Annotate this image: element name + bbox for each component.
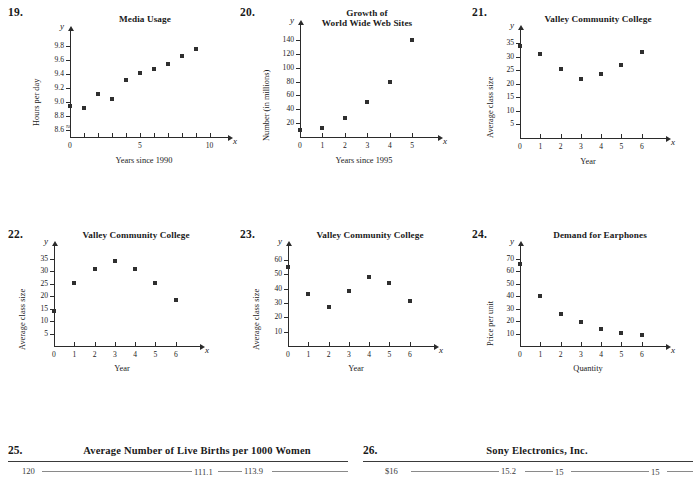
y-axis-tick	[296, 54, 300, 55]
table-25-row-rule-a	[42, 471, 192, 472]
x-axis-line	[54, 346, 200, 347]
y-axis-arrow	[286, 241, 292, 246]
data-point	[327, 305, 331, 309]
data-point	[579, 320, 583, 324]
data-point	[306, 292, 310, 296]
data-point	[133, 267, 137, 271]
table-25-rule	[8, 461, 348, 462]
problem-20: 20. Growth of World Wide Web Sites yx204…	[240, 6, 468, 166]
x-axis-tick	[176, 342, 177, 346]
y-axis-title: Hours per day	[32, 79, 41, 126]
table-25: 25. Average Number of Live Births per 10…	[8, 444, 348, 477]
x-axis-tick	[300, 133, 301, 137]
y-axis-tick	[66, 116, 70, 117]
x-axis-tick-label: 1	[64, 351, 84, 359]
y-axis-variable: y	[44, 236, 48, 246]
x-axis-tick-label: 2	[551, 143, 571, 151]
x-axis-tick-label: 3	[357, 142, 377, 150]
y-axis-break-icon: ≈	[66, 123, 70, 131]
textbook-page: 19. Media Usage yx8.68.89.09.29.49.69.8≈…	[0, 0, 695, 477]
table-title-25: Average Number of Live Births per 1000 W…	[52, 445, 342, 456]
x-axis-tick-label: 4	[591, 143, 611, 151]
x-axis-tick-label: 5	[611, 143, 631, 151]
y-axis-tick-label: 70	[486, 255, 514, 263]
data-point	[410, 38, 414, 42]
x-axis-tick	[369, 342, 370, 346]
problem-23: 23. Valley Community College yx102030405…	[240, 228, 468, 368]
data-point	[82, 106, 86, 110]
x-axis-tick	[98, 133, 99, 137]
y-axis-tick-label: 35	[20, 255, 48, 263]
table-number-26: 26.	[363, 444, 377, 456]
data-point	[174, 298, 178, 302]
x-axis-tick	[367, 133, 368, 137]
x-axis-line	[520, 138, 666, 139]
y-axis-tick	[296, 40, 300, 41]
x-axis-tick-label: 5	[611, 351, 631, 359]
data-point	[518, 44, 522, 48]
data-point	[619, 63, 623, 67]
x-axis-tick	[540, 342, 541, 346]
data-point	[599, 72, 603, 76]
y-axis-tick-label: 120	[266, 50, 294, 58]
x-axis-tick-label: 1	[530, 351, 550, 359]
y-axis-tick	[66, 46, 70, 47]
y-axis-tick-label: 50	[486, 280, 514, 288]
y-axis-tick	[284, 274, 288, 275]
x-axis-tick	[642, 134, 643, 138]
x-axis-tick	[390, 133, 391, 137]
table-26-value-2: 15	[555, 467, 564, 477]
y-axis-title: Number (in millions)	[262, 70, 271, 141]
y-axis-tick	[516, 97, 520, 98]
data-point	[559, 67, 563, 71]
data-point	[72, 281, 76, 285]
x-axis-tick-label: 4	[591, 351, 611, 359]
data-point	[194, 47, 198, 51]
y-axis-arrow	[52, 241, 58, 246]
x-axis-tick-label: 4	[380, 142, 400, 150]
x-axis-tick-label: 6	[632, 351, 652, 359]
x-axis-variable: x	[233, 136, 237, 146]
y-axis-variable: y	[510, 236, 514, 246]
y-axis-tick	[284, 303, 288, 304]
data-point	[52, 309, 56, 313]
data-point	[298, 128, 302, 132]
x-axis-tick-label: 2	[85, 351, 105, 359]
y-axis-tick-label: 60	[254, 256, 282, 264]
y-axis-tick-label: 8.6	[36, 126, 64, 134]
x-axis-tick-label: 0	[44, 351, 64, 359]
x-axis-tick	[84, 133, 85, 137]
x-axis-variable: x	[671, 345, 675, 355]
y-axis-tick	[516, 309, 520, 310]
data-point	[640, 50, 644, 54]
x-axis-tick	[561, 134, 562, 138]
y-axis-line	[70, 31, 71, 137]
data-point	[388, 80, 392, 84]
data-point	[110, 97, 114, 101]
table-26-value-3: 15	[651, 467, 660, 477]
x-axis-line	[520, 346, 666, 347]
y-axis-tick-label: 9.4	[36, 70, 64, 78]
x-axis-tick	[115, 342, 116, 346]
x-axis-tick	[154, 133, 155, 137]
x-axis-tick-label: 6	[632, 143, 652, 151]
x-axis-tick	[74, 342, 75, 346]
y-axis-title: Average class size	[18, 289, 27, 350]
data-point	[599, 327, 603, 331]
data-point	[367, 275, 371, 279]
x-axis-tick-label: 10	[200, 142, 220, 150]
data-point	[124, 78, 128, 82]
data-point	[347, 289, 351, 293]
data-point	[579, 77, 583, 81]
x-axis-tick	[308, 342, 309, 346]
y-axis-arrow	[518, 25, 524, 30]
y-axis-variable: y	[510, 20, 514, 30]
y-axis-tick	[516, 70, 520, 71]
y-axis-title: Average class size	[486, 77, 495, 138]
y-axis-tick-label: 30	[486, 53, 514, 61]
y-axis-tick	[516, 321, 520, 322]
table-25-first-value: 120	[22, 466, 35, 476]
data-point	[96, 92, 100, 96]
y-axis-tick	[50, 334, 54, 335]
x-axis-title: Quantity	[528, 364, 648, 373]
